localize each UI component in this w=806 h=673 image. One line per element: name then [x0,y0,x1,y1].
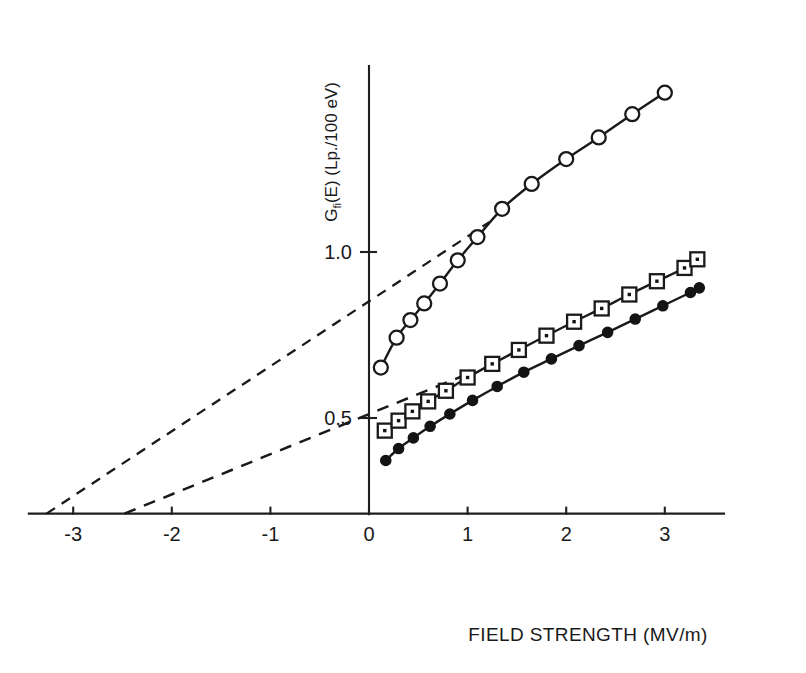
data-point-marker-center [683,266,686,269]
series-line-filled-circles [386,288,700,461]
y-axis-title-group: Gfi(E) (Lp./100 eV) [322,82,343,222]
data-series-markers-group [374,86,705,466]
data-point-marker-center [628,293,631,296]
data-point-marker-center [397,419,400,422]
y-axis-title-main: G [322,209,341,222]
y-axis-title-rest: (E) (Lp./100 eV) [322,82,341,203]
data-point-marker [625,107,639,121]
series-markers-open-squares [378,252,705,437]
x-tick-label: 3 [659,523,670,545]
data-point-marker [559,152,573,166]
data-point-marker [492,381,502,391]
figure-container: -3-2-10123 0.51.0 FIELD STRENGTH (MV/m) … [0,0,806,673]
data-point-marker-center [444,389,447,392]
x-tick-label: 2 [561,523,572,545]
data-point-marker [394,444,404,454]
data-point-marker-center [572,320,575,323]
x-tick-label: -2 [163,523,181,545]
data-point-marker [468,395,478,405]
y-axis-title: Gfi(E) (Lp./100 eV) [322,82,343,222]
data-point-marker-center [426,400,429,403]
data-point-marker [403,313,417,327]
y-axis-tick-labels: 0.51.0 [324,241,352,429]
data-point-marker-center [517,348,520,351]
data-point-marker-center [696,258,699,261]
data-point-marker [425,421,435,431]
data-point-marker [574,341,584,351]
y-tick-label: 1.0 [324,241,352,263]
data-point-marker [546,354,556,364]
data-point-marker [630,314,640,324]
data-point-marker-center [545,334,548,337]
data-point-marker [525,177,539,191]
data-point-marker [374,361,388,375]
series-markers-open-circles [374,86,672,375]
data-point-marker [603,327,613,337]
data-point-marker [433,277,447,291]
data-point-marker [470,230,484,244]
x-tick-label: -3 [64,523,82,545]
data-point-marker [417,296,431,310]
data-point-marker [451,253,465,267]
axes-group [29,66,724,514]
data-point-marker [495,202,509,216]
data-point-marker-center [600,307,603,310]
extrapolation-lines-group [47,222,490,513]
data-point-marker [694,283,704,293]
data-point-marker [445,409,455,419]
data-point-marker [381,455,391,465]
upper-dashed-extrapolation [47,222,490,513]
data-point-marker-center [655,280,658,283]
x-axis-tick-labels: -3-2-10123 [64,523,670,545]
data-point-marker [592,130,606,144]
data-point-marker-center [411,410,414,413]
data-point-marker-center [491,362,494,365]
data-point-marker [658,301,668,311]
x-tick-label: 0 [363,523,374,545]
data-point-marker-center [383,429,386,432]
chart-canvas: -3-2-10123 0.51.0 FIELD STRENGTH (MV/m) … [0,0,806,673]
x-tick-label: -1 [262,523,280,545]
data-point-marker [390,331,404,345]
data-point-marker [519,367,529,377]
lower-dashed-extrapolation [124,373,469,513]
data-point-marker [658,86,672,100]
x-axis-title: FIELD STRENGTH (MV/m) [468,624,708,645]
x-tick-label: 1 [462,523,473,545]
data-point-marker [408,433,418,443]
data-point-marker-center [466,376,469,379]
